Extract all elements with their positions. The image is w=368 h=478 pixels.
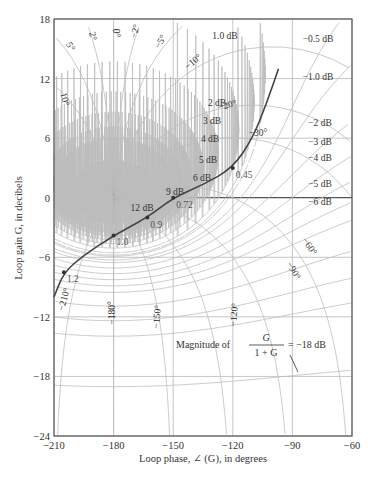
contour-line (54, 370, 350, 386)
magnitude-annotation: Magnitude of G 1 + G = −18 dB (176, 332, 326, 372)
phase-contour-label: 2° (87, 31, 99, 42)
phase-contour-label: −120° (228, 302, 240, 326)
nichols-chart: 1.0 dB2 dB3 dB4 dB5 dB6 dB9 dB12 dB−0.5 … (0, 0, 368, 478)
frequency-marker-label: 0.72 (176, 200, 193, 210)
magnitude-contour-label: 1.0 dB (212, 31, 237, 41)
phase-contour-label: 10° (58, 92, 71, 108)
phase-contour-label: −180° (107, 301, 117, 325)
magnitude-contour-label: −2 dB (308, 118, 332, 128)
phase-contour-label: −2° (128, 23, 141, 39)
y-tick-label: 12 (40, 74, 51, 85)
annotation-pointer (290, 355, 298, 372)
phase-contour-label: 0° (111, 29, 121, 38)
magnitude-contour-label: 3 dB (203, 116, 221, 126)
closed-loop-contours (54, 22, 352, 436)
magnitude-contour-label: −4 dB (308, 153, 332, 163)
x-tick-label: −60 (344, 440, 360, 451)
frequency-marker-label: 1.2 (67, 274, 79, 284)
contour-line (55, 239, 61, 242)
frequency-marker-label: 0.9 (150, 220, 162, 230)
magnitude-contour-label: −5 dB (308, 179, 332, 189)
magnitude-contour-label: −6 dB (308, 197, 332, 207)
contour-line (55, 278, 351, 320)
annotation-text: Magnitude of (176, 339, 231, 350)
annotation-denominator: 1 + G (255, 347, 278, 358)
contour-line (203, 210, 216, 223)
y-tick-label: −18 (34, 371, 50, 382)
x-tick-label: −150 (162, 440, 184, 451)
frequency-marker-label: 1.0 (117, 237, 129, 247)
contour-line (249, 149, 254, 163)
y-tick-label: −6 (39, 252, 50, 263)
contour-line (217, 199, 225, 209)
frequency-marker (112, 233, 116, 237)
phase-contour-label: 5° (64, 40, 77, 53)
magnitude-contour-label: −3 dB (308, 137, 332, 147)
y-tick-label: −24 (34, 431, 51, 442)
phase-contour-label: −5° (153, 33, 169, 50)
magnitude-contour-label: 12 dB (131, 203, 154, 213)
frequency-marker-label: 0.45 (236, 170, 253, 180)
x-tick-label: −90 (284, 440, 300, 451)
contour-line (55, 244, 80, 253)
annotation-value: = −18 dB (288, 339, 326, 350)
y-tick-label: 0 (45, 193, 50, 204)
magnitude-contour-label: 5 dB (199, 155, 217, 165)
frequency-marker (231, 166, 235, 170)
frequency-marker (171, 196, 175, 200)
x-tick-label: −120 (222, 440, 244, 451)
y-tick-label: −12 (34, 312, 50, 323)
x-tick-label: −180 (103, 440, 125, 451)
phase-contour-label: −90° (285, 260, 303, 281)
magnitude-contour-label: 4 dB (201, 134, 219, 144)
phase-contour-label: −10° (183, 52, 204, 72)
phase-contour-label: −150° (151, 304, 163, 328)
magnitude-contour-label: −1.0 dB (303, 72, 334, 82)
y-axis-title: Loop gain G, in decibels (13, 176, 24, 280)
y-tick-label: 6 (45, 133, 50, 144)
contour-line (123, 251, 138, 253)
phase-contour-label: −60° (300, 236, 319, 257)
magnitude-contour-label: −0.5 dB (303, 34, 334, 44)
magnitude-contour-label: 9 dB (166, 187, 184, 197)
frequency-marker (62, 270, 66, 274)
y-tick-label: 18 (40, 14, 51, 25)
frequency-marker (145, 216, 149, 220)
annotation-numerator: G (262, 332, 269, 343)
contour-line (55, 303, 352, 336)
contour-line (224, 183, 239, 205)
x-axis-title: Loop phase, ∠ (G), in degrees (139, 453, 267, 465)
phase-contour-label: −30° (249, 128, 268, 138)
